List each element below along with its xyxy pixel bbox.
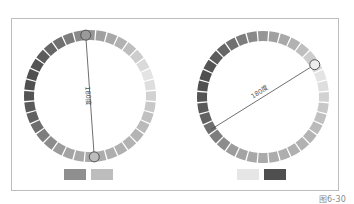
wheel-segment <box>247 31 258 42</box>
wheel-segment <box>197 92 207 102</box>
angle-label: 180度 <box>249 83 270 101</box>
swatch-primary <box>237 169 259 180</box>
wheel-segment <box>258 31 268 41</box>
wheel-segment <box>24 80 35 91</box>
wheel-segment <box>74 150 85 161</box>
wheel-segment <box>24 101 35 112</box>
color-wheels: 180度180度 <box>0 0 354 204</box>
wheel-segment <box>197 81 208 92</box>
wheel-segment <box>247 151 258 162</box>
wheel-segment <box>268 31 279 42</box>
wheel-segment <box>319 92 329 102</box>
figure-caption: 图6-30 <box>319 193 346 204</box>
selected-color-marker <box>310 60 320 70</box>
swatch-complement <box>91 169 113 180</box>
wheel-segment <box>24 91 34 101</box>
wheel-segment <box>317 81 328 92</box>
swatch-complement <box>264 169 286 180</box>
swatch-primary <box>64 169 86 180</box>
wheel-segment <box>197 102 208 113</box>
wheel-segment <box>258 153 268 163</box>
wheel-segment <box>144 101 155 112</box>
wheel-segment <box>146 91 156 101</box>
wheel-segment <box>95 30 106 41</box>
left-wheel: 180度 <box>24 30 156 180</box>
wheel-segment <box>144 80 155 91</box>
selected-color-marker <box>81 30 91 40</box>
complementary-line <box>211 65 314 130</box>
right-wheel: 180度 <box>197 31 329 180</box>
complement-color-marker <box>89 152 99 162</box>
wheel-segment <box>317 102 328 113</box>
angle-label: 180度 <box>83 86 93 106</box>
wheel-segment <box>268 151 279 162</box>
